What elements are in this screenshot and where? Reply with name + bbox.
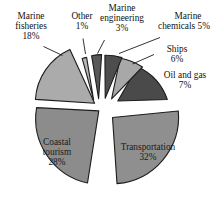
pie-label-marine-engineering-pct: 3% [86, 23, 158, 33]
leader-line-marine-engineering [98, 40, 105, 54]
pie-label-marine-engineering-line1: Marine [109, 3, 136, 13]
pie-label-marine-fisheries-line1: Marine [18, 11, 45, 21]
leader-line-ships [133, 55, 155, 65]
pie-label-transportation-line1: Transportation [121, 142, 175, 152]
pie-label-marine-fisheries: Marine fisheries 18% [2, 11, 60, 42]
pie-label-coastal-tourism-pct: 28% [28, 157, 86, 167]
pie-label-transportation: Transportation 32% [110, 142, 186, 162]
pie-slice-marine-engineering[interactable] [92, 55, 102, 99]
pie-label-marine-engineering-line2: engineering [100, 13, 144, 23]
pie-label-ships: Ships 6% [155, 44, 199, 64]
leader-line-marine-fisheries [44, 47, 63, 56]
pie-chart: Marine fisheries 18% Other 1% Marine eng… [0, 0, 220, 210]
pie-label-transportation-pct: 32% [110, 152, 186, 162]
pie-label-ships-pct: 6% [155, 54, 199, 64]
pie-label-coastal-tourism-line2: tourism [43, 147, 71, 157]
pie-label-oil-and-gas: Oil and gas 7% [152, 70, 218, 90]
pie-label-marine-chemicals: Marine chemicals 5% [158, 11, 218, 31]
pie-label-coastal-tourism-line1: Coastal [43, 137, 71, 147]
pie-label-marine-fisheries-line2: fisheries [15, 21, 47, 31]
pie-label-marine-fisheries-pct: 18% [2, 31, 60, 41]
leader-line-other [83, 39, 86, 55]
leader-line-marine-chemicals [119, 38, 160, 54]
pie-label-marine-chemicals-line1: Marine [158, 11, 218, 21]
pie-label-marine-chemicals-line2: chemicals [158, 21, 195, 31]
pie-label-oil-and-gas-line1: Oil and gas [164, 70, 206, 80]
pie-label-oil-and-gas-pct: 7% [152, 80, 218, 90]
pie-label-marine-chemicals-pct: 5% [198, 21, 210, 31]
pie-label-marine-engineering: Marine engineering 3% [86, 3, 158, 34]
pie-label-coastal-tourism: Coastal tourism 28% [28, 137, 86, 168]
pie-label-ships-line1: Ships [167, 44, 188, 54]
